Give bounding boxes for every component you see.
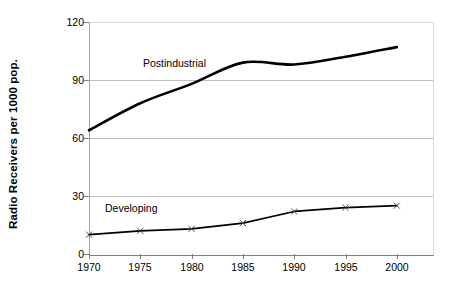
series-label-postindustrial: Postindustrial	[143, 57, 206, 69]
series-label-developing: Developing	[105, 202, 158, 214]
radio-receivers-line-chart: Radio Receivers per 1000 pop. 0 30 60 90…	[0, 0, 451, 288]
series-postindustrial	[89, 47, 397, 130]
series-lines	[0, 0, 451, 288]
series-postindustrial-line	[89, 47, 397, 130]
